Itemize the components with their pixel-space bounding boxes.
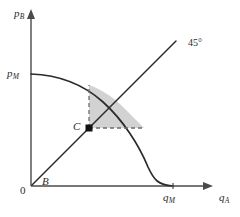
x-intercept-label-base: q bbox=[163, 191, 169, 203]
y-intercept-label: pM bbox=[7, 68, 19, 81]
y-axis-label: pB bbox=[14, 8, 24, 21]
origin-label: 0 bbox=[20, 185, 26, 196]
x-intercept-label-subscript: M bbox=[169, 196, 176, 205]
figure-canvas bbox=[0, 0, 240, 217]
x-axis-arrowhead bbox=[203, 182, 213, 190]
forty-five-degree-line bbox=[32, 41, 176, 185]
economics-frontier-figure: pB pM qA qM 0 B C 45° bbox=[0, 0, 240, 217]
y-intercept-label-base: p bbox=[7, 67, 13, 79]
forty-five-degree-label: 45° bbox=[188, 38, 202, 48]
y-axis-label-subscript: B bbox=[20, 12, 25, 21]
x-intercept-label: qM bbox=[163, 192, 175, 205]
x-axis-label: qA bbox=[219, 192, 229, 205]
x-axis-label-subscript: A bbox=[225, 196, 230, 205]
shaded-lens-region bbox=[89, 85, 144, 128]
x-axis-label-base: q bbox=[219, 191, 225, 203]
point-c-marker bbox=[86, 125, 93, 132]
point-c-label: C bbox=[73, 121, 80, 132]
frontier-curve bbox=[31, 74, 173, 186]
y-axis-arrowhead bbox=[27, 9, 35, 19]
y-intercept-label-subscript: M bbox=[13, 72, 20, 81]
y-axis-label-base: p bbox=[14, 7, 20, 19]
point-b-label: B bbox=[42, 176, 49, 187]
